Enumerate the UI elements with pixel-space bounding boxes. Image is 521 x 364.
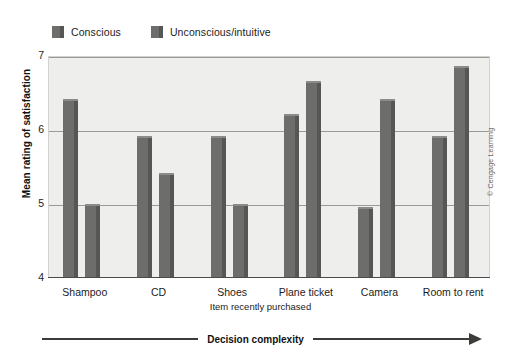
credit-text: © Cengage Learning <box>487 128 494 196</box>
bar-unconscious-intuitive-shoes <box>233 204 248 277</box>
plot-inner <box>49 57 489 277</box>
gridline <box>49 57 489 58</box>
bar-face <box>284 114 295 277</box>
y-tick-label: 5 <box>4 197 44 209</box>
bar-face <box>432 136 443 277</box>
bar-face <box>63 99 74 277</box>
bar-face <box>85 204 96 277</box>
bar-face <box>380 99 391 277</box>
legend-label-conscious: Conscious <box>71 26 121 38</box>
legend-swatch-icon <box>52 26 64 38</box>
bar-top <box>432 136 447 138</box>
bar-conscious-room-to-rent <box>432 136 447 277</box>
chart-figure: Conscious Unconscious/intuitive Mean rat… <box>0 0 521 364</box>
legend-swatch-icon <box>151 26 163 38</box>
y-tick-label: 6 <box>4 123 44 135</box>
annotation-arrow <box>313 333 482 345</box>
bar-side <box>170 173 174 277</box>
bar-side <box>148 136 152 277</box>
plot-area <box>48 56 490 278</box>
bar-top <box>211 136 226 138</box>
annotation-label: Decision complexity <box>198 334 313 345</box>
bar-unconscious-intuitive-plane-ticket <box>306 81 321 277</box>
annotation-line-right <box>313 338 469 340</box>
bar-face <box>454 66 465 277</box>
bar-top <box>284 114 299 116</box>
bar-top <box>358 207 373 209</box>
legend-entry-conscious: Conscious <box>52 26 121 38</box>
y-tick-label: 4 <box>4 271 44 283</box>
bar-top <box>137 136 152 138</box>
legend-label-unconscious: Unconscious/intuitive <box>170 26 271 38</box>
bar-side <box>443 136 447 277</box>
bar-conscious-shoes <box>211 136 226 277</box>
bar-side <box>295 114 299 277</box>
bar-face <box>211 136 222 277</box>
bar-side <box>222 136 226 277</box>
gridline <box>49 205 489 206</box>
bar-unconscious-intuitive-camera <box>380 99 395 277</box>
bar-side <box>317 81 321 277</box>
bar-unconscious-intuitive-shampoo <box>85 204 100 277</box>
bar-face <box>233 204 244 277</box>
x-axis-line <box>48 277 490 278</box>
bar-top <box>233 204 248 206</box>
bar-conscious-shampoo <box>63 99 78 277</box>
bar-side <box>369 207 373 277</box>
gridline <box>49 131 489 132</box>
bar-top <box>85 204 100 206</box>
bar-side <box>391 99 395 277</box>
bar-top <box>63 99 78 101</box>
bar-top <box>159 173 174 175</box>
legend-entry-unconscious: Unconscious/intuitive <box>151 26 271 38</box>
bar-face <box>137 136 148 277</box>
bar-top <box>380 99 395 101</box>
decision-complexity-annotation: Decision complexity <box>42 330 482 348</box>
bar-side <box>96 204 100 277</box>
bar-conscious-camera <box>358 207 373 277</box>
annotation-line-left <box>42 338 198 340</box>
bar-top <box>454 66 469 68</box>
y-tick-label: 7 <box>4 49 44 61</box>
bar-side <box>74 99 78 277</box>
bar-face <box>306 81 317 277</box>
bar-face <box>358 207 369 277</box>
bar-conscious-plane-ticket <box>284 114 299 277</box>
x-tick-label: Room to rent <box>393 286 513 298</box>
x-axis-label: Item recently purchased <box>0 301 521 312</box>
bar-side <box>465 66 469 277</box>
bar-face <box>159 173 170 277</box>
arrow-right-icon <box>469 333 482 345</box>
bar-side <box>244 204 248 277</box>
bar-unconscious-intuitive-cd <box>159 173 174 277</box>
chart-legend: Conscious Unconscious/intuitive <box>52 24 271 40</box>
bar-unconscious-intuitive-room-to-rent <box>454 66 469 277</box>
bar-top <box>306 81 321 83</box>
bar-conscious-cd <box>137 136 152 277</box>
